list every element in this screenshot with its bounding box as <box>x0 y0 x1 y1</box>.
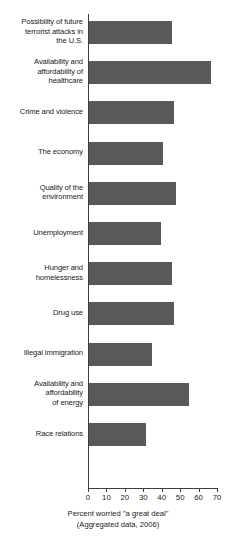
category-label-line: affordability of <box>0 67 83 77</box>
category-label-line: healthcare <box>0 76 83 86</box>
bar <box>89 302 174 325</box>
category-label-line: Crime and violence <box>0 107 83 117</box>
category-label: Possibility of futureterrorist attacks i… <box>0 17 83 46</box>
category-label-line: Hunger and <box>0 263 83 273</box>
bar-chart: Possibility of futureterrorist attacks i… <box>0 0 236 545</box>
bar <box>89 101 174 124</box>
category-label-line: Race relations <box>0 429 83 439</box>
bar <box>89 383 189 406</box>
bar-row: The economy <box>0 135 236 175</box>
bar-row: Hunger andhomelessness <box>0 255 236 295</box>
bar-row: Illegal immigration <box>0 336 236 376</box>
bar-row: Crime and violence <box>0 94 236 134</box>
category-label-line: homelessness <box>0 273 83 283</box>
category-label: Crime and violence <box>0 107 83 117</box>
x-tick <box>88 488 89 492</box>
category-label: Quality of theenvironment <box>0 183 83 202</box>
category-label-line: Availability and <box>0 57 83 67</box>
category-label-line: of energy <box>0 398 83 408</box>
x-tick <box>199 488 200 492</box>
bar-row: Availability andaffordabilityof energy <box>0 376 236 416</box>
x-tick <box>217 488 218 492</box>
category-label: Drug use <box>0 308 83 318</box>
category-label: Hunger andhomelessness <box>0 263 83 282</box>
plot-area: Possibility of futureterrorist attacks i… <box>0 0 236 480</box>
category-label-line: Unemployment <box>0 228 83 238</box>
category-label-line: environment <box>0 192 83 202</box>
bar <box>89 343 152 366</box>
category-label-line: The economy <box>0 147 83 157</box>
x-tick <box>106 488 107 492</box>
category-label: Availability andaffordabilityof energy <box>0 379 83 408</box>
x-tick <box>180 488 181 492</box>
bar <box>89 142 163 165</box>
category-label-line: affordability <box>0 388 83 398</box>
x-tick <box>162 488 163 492</box>
bar-row: Race relations <box>0 416 236 456</box>
category-label-line: Illegal immigration <box>0 348 83 358</box>
category-label-line: the U.S. <box>0 36 83 46</box>
x-axis: 010203040506070 Percent worried "a great… <box>0 488 236 545</box>
category-label: Availability andaffordability ofhealthca… <box>0 57 83 86</box>
bar <box>89 21 172 44</box>
category-label: Illegal immigration <box>0 348 83 358</box>
category-label-line: Availability and <box>0 379 83 389</box>
category-label-line: terrorist attacks in <box>0 27 83 37</box>
bar-row: Availability andaffordability ofhealthca… <box>0 54 236 94</box>
category-label-line: Quality of the <box>0 183 83 193</box>
x-axis-caption: Percent worried "a great deal" (Aggregat… <box>0 509 236 530</box>
x-tick <box>125 488 126 492</box>
bar <box>89 222 161 245</box>
x-axis-caption-line2: (Aggregated data, 2006) <box>0 520 236 531</box>
bar <box>89 182 176 205</box>
category-label: Unemployment <box>0 228 83 238</box>
bar <box>89 61 211 84</box>
bar-row: Possibility of futureterrorist attacks i… <box>0 14 236 54</box>
bar-row: Quality of theenvironment <box>0 175 236 215</box>
bar <box>89 423 146 446</box>
category-label: The economy <box>0 147 83 157</box>
x-tick <box>143 488 144 492</box>
bar-row: Drug use <box>0 295 236 335</box>
x-tick-label: 70 <box>205 493 229 503</box>
bar-row: Unemployment <box>0 215 236 255</box>
category-label: Race relations <box>0 429 83 439</box>
x-axis-caption-line1: Percent worried "a great deal" <box>0 509 236 520</box>
bar <box>89 262 172 285</box>
category-label-line: Drug use <box>0 308 83 318</box>
category-label-line: Possibility of future <box>0 17 83 27</box>
